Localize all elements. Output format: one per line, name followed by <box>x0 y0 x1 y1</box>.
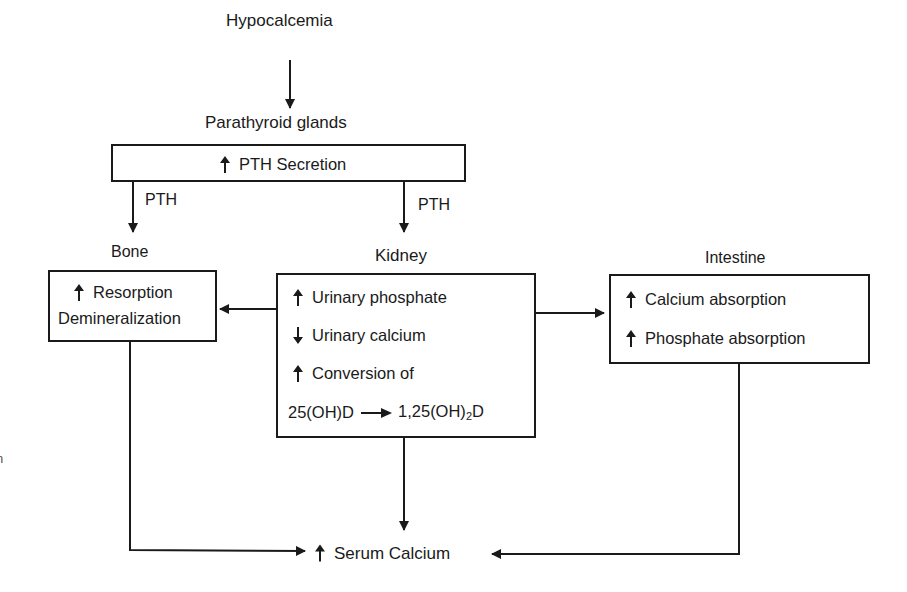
kidney-title: Kidney <box>375 247 427 264</box>
kidney-box: Urinary phosphate Urinary calcium Conver… <box>276 273 536 438</box>
intestine-box: Calcium absorption Phosphate absorption <box>609 274 870 364</box>
parathyroid-glands-label: Parathyroid glands <box>205 114 347 131</box>
bone-effect-resorption: Resorption <box>93 284 173 301</box>
increase-arrow-icon <box>220 156 230 173</box>
kidney-effect-urinary-calcium: Urinary calcium <box>312 327 426 344</box>
increase-arrow-icon <box>626 330 636 347</box>
intestine-effect-phosphate-absorption: Phosphate absorption <box>645 330 806 347</box>
edge-label-pth-bone: PTH <box>145 192 177 208</box>
serum-calcium-label: Serum Calcium <box>334 545 450 562</box>
serum-calcium-outcome: Serum Calcium <box>315 543 450 563</box>
kidney-effect-conversion: Conversion of <box>312 365 414 382</box>
conversion-arrow-icon <box>359 408 393 418</box>
pth-secretion-box: PTH Secretion <box>111 144 466 182</box>
increase-arrow-icon <box>74 284 84 301</box>
increase-arrow-icon <box>315 543 325 563</box>
bone-effect-demineralization: Demineralization <box>58 310 181 327</box>
pth-secretion-text: PTH Secretion <box>239 156 346 173</box>
bone-box: Resorption Demineralization <box>48 270 217 342</box>
edge-label-pth-kidney: PTH <box>418 197 450 213</box>
cropped-text-fragment: n <box>0 452 3 465</box>
intestine-effect-calcium-absorption: Calcium absorption <box>645 291 786 308</box>
hypocalcemia-label: Hypocalcemia <box>226 12 333 29</box>
increase-arrow-icon <box>293 365 303 382</box>
bone-title: Bone <box>111 244 148 260</box>
conversion-from: 25(OH)D <box>288 404 354 421</box>
vitamin-d-conversion: 25(OH)D 1,25(OH)2D <box>288 403 484 422</box>
decrease-arrow-icon <box>293 327 303 344</box>
intestine-title: Intestine <box>705 250 765 266</box>
conversion-to: 1,25(OH)2D <box>398 403 484 422</box>
kidney-effect-urinary-phosphate: Urinary phosphate <box>312 289 447 306</box>
increase-arrow-icon <box>293 289 303 306</box>
increase-arrow-icon <box>626 291 636 308</box>
